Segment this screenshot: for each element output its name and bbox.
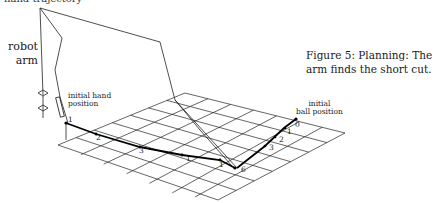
hand-point-label: 2 [96,133,101,142]
ball-label-line2: ball position [296,108,343,116]
ball-point-label: 2 [279,135,284,144]
ball-point-label: 1 [287,127,292,136]
hand-point-label: 6 [241,165,246,174]
hand-point-label: 1 [68,115,73,124]
hand-point-label: 1 [219,160,224,169]
ball-point-label: 3 [269,143,274,152]
initial-ball-label: initial ball position [296,100,343,116]
ball-point-label: 0 [295,120,300,129]
hand-point-label: 1 [186,154,191,163]
planning-diagram [0,0,445,203]
hand-path [66,123,235,168]
initial-hand-label: initial hand position [68,92,111,108]
hand-label-line2: position [68,100,111,108]
hand-point-label: 3 [139,146,144,155]
